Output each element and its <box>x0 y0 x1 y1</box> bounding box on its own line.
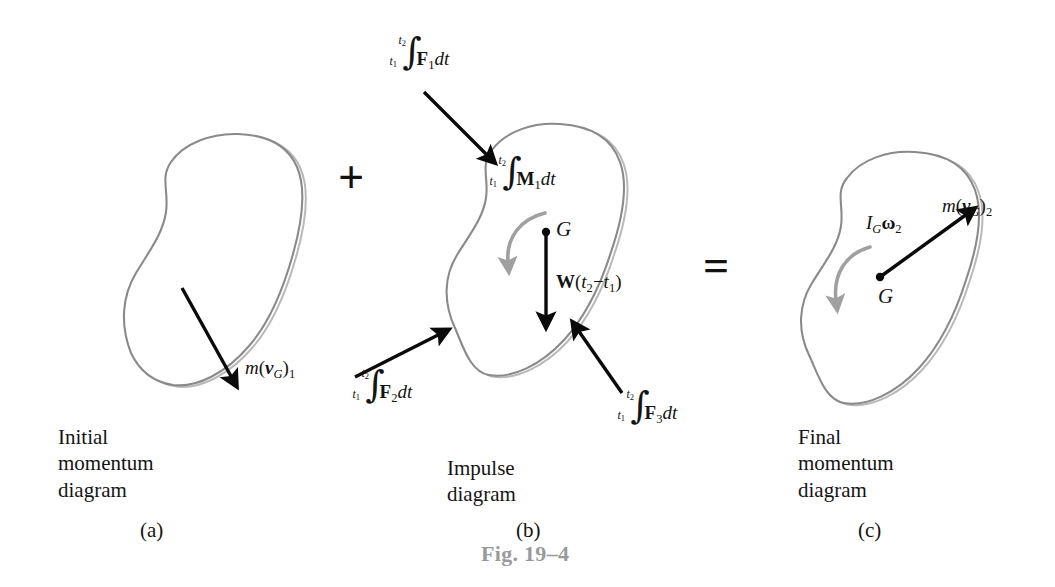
caption-panel-a: Initial momentum diagram <box>58 424 154 503</box>
caption-panel-b: Impulse diagram <box>447 455 516 508</box>
force-impulse-1-arrow <box>424 92 488 156</box>
equals-operator: = <box>703 243 729 289</box>
panel-c-body <box>801 152 983 405</box>
label-force-impulse-2: t2 ∫ t1 F2dt <box>352 377 412 406</box>
label-linear-momentum-initial: m(vG)1 <box>245 358 295 381</box>
panel-b-body <box>447 124 628 377</box>
force-impulse-3-arrow <box>578 330 622 393</box>
sublabel-panel-a: (a) <box>140 518 163 543</box>
figure-19-4: + = m(vG)1 t2 ∫ t1 F1dt t2 ∫ t1 M1dt G W… <box>0 0 1055 587</box>
plus-operator: + <box>338 155 364 201</box>
figure-number: Fig. 19–4 <box>481 541 569 567</box>
label-force-impulse-3: t2 ∫ t1 F3dt <box>617 398 677 427</box>
integral-sign-m1: t2 ∫ t1 <box>489 164 517 193</box>
figure-geometry-layer <box>0 0 1055 587</box>
label-weight-impulse: W(t2−t1) <box>556 272 621 295</box>
label-center-of-mass-b: G <box>556 218 571 240</box>
integral-sign-f3: t2 ∫ t1 <box>617 398 645 427</box>
caption-panel-c: Final momentum diagram <box>798 424 894 503</box>
label-force-impulse-1: t2 ∫ t1 F1dt <box>389 44 449 73</box>
label-center-of-mass-c: G <box>878 285 893 307</box>
sublabel-panel-c: (c) <box>858 518 881 543</box>
sublabel-panel-b: (b) <box>516 518 541 543</box>
label-linear-momentum-final: m(vG)2 <box>942 196 992 219</box>
label-moment-impulse-1: t2 ∫ t1 M1dt <box>489 164 556 193</box>
integral-sign-f1: t2 ∫ t1 <box>389 44 417 73</box>
label-angular-momentum-final: IGω2 <box>866 213 902 236</box>
integral-sign-f2: t2 ∫ t1 <box>352 377 380 406</box>
